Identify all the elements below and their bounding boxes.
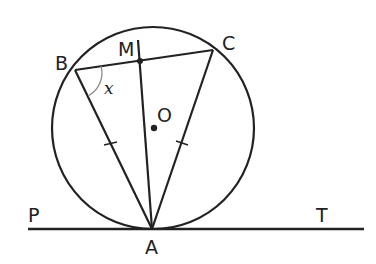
point-m [137,58,143,64]
label-m: M [118,40,134,59]
segment-ca [152,50,213,229]
chord-bc [75,50,213,70]
label-t: T [316,206,328,225]
label-b: B [55,54,68,73]
geometry-diagram: B M C O P T A x [0,0,376,264]
angle-arc-x [88,66,102,96]
label-o: O [157,106,172,125]
label-angle-x: x [104,80,114,97]
label-c: C [222,34,235,53]
label-a: A [145,238,158,257]
label-p: P [28,206,39,225]
segment-am [138,40,152,229]
